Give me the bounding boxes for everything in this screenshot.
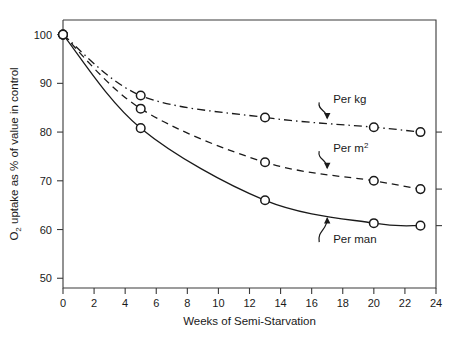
series-line-per-man [63, 35, 420, 226]
annotation-label-text-per-kg: Per kg [333, 93, 366, 105]
y-tick-label-80: 80 [40, 126, 52, 138]
y-tick-label-50: 50 [40, 272, 52, 284]
annotation-label-superscript-per-m2: 2 [364, 141, 369, 150]
y-axis-title-rest: uptake as % of value in control [8, 67, 20, 227]
data-point-per-man-w0 [59, 30, 68, 39]
annotation-per-man: Per man [319, 217, 377, 245]
x-tick-label-18: 18 [337, 297, 349, 309]
y-axis-tick-labels: 5060708090100 [34, 29, 52, 285]
chart-figure: 024681012141618202224 5060708090100 Per … [0, 0, 459, 339]
annotation-label-per-kg: Per kg [333, 93, 366, 105]
data-point-per-m2-w13 [261, 158, 270, 167]
series-per-kg [59, 30, 425, 136]
annotation-label-per-man: Per man [333, 233, 376, 245]
x-axis-title: Weeks of Semi-Starvation [183, 315, 316, 327]
y-tick-label-70: 70 [40, 175, 52, 187]
x-tick-label-20: 20 [368, 297, 380, 309]
annotation-label-text-per-m2: Per m [333, 142, 364, 154]
y-axis-title: O2 uptake as % of value in control [8, 67, 23, 240]
x-tick-label-2: 2 [91, 297, 97, 309]
data-series-group [59, 30, 425, 230]
frame-border [63, 20, 436, 288]
series-line-per-kg [63, 35, 420, 132]
data-point-per-kg-w13 [261, 113, 270, 122]
data-point-per-man-w5 [136, 124, 145, 133]
x-tick-label-12: 12 [243, 297, 255, 309]
data-point-per-kg-w5 [136, 91, 145, 100]
x-tick-label-14: 14 [274, 297, 286, 309]
x-tick-label-10: 10 [212, 297, 224, 309]
annotation-per-kg: Per kg [319, 93, 367, 119]
x-tick-label-8: 8 [184, 297, 190, 309]
data-point-per-m2-w20 [370, 177, 379, 186]
x-tick-label-16: 16 [306, 297, 318, 309]
y-tick-label-100: 100 [34, 29, 52, 41]
data-point-per-m2-w23 [416, 185, 425, 194]
data-point-per-kg-w23 [416, 128, 425, 137]
x-tick-label-4: 4 [122, 297, 128, 309]
x-tick-label-6: 6 [153, 297, 159, 309]
data-point-per-man-w23 [416, 221, 425, 230]
annotation-arrowhead-per-m2 [324, 163, 330, 170]
data-point-per-m2-w5 [136, 104, 145, 113]
x-tick-label-24: 24 [430, 297, 442, 309]
annotation-per-m2: Per m2 [319, 141, 369, 169]
y-axis-title-lead: O [8, 232, 20, 241]
annotation-label-per-m2: Per m2 [333, 141, 369, 154]
y-tick-label-60: 60 [40, 224, 52, 236]
data-point-per-man-w20 [370, 219, 379, 228]
annotation-arrowhead-per-kg [324, 113, 330, 120]
y-tick-label-90: 90 [40, 77, 52, 89]
annotation-arrowhead-per-man [324, 217, 330, 224]
chart-canvas: 024681012141618202224 5060708090100 Per … [0, 0, 459, 339]
data-point-per-man-w13 [261, 196, 270, 205]
x-axis-tick-labels: 024681012141618202224 [60, 297, 442, 309]
y-axis-ticks [57, 35, 442, 279]
x-axis-ticks [63, 288, 436, 294]
data-point-per-kg-w20 [370, 123, 379, 132]
plot-frame [63, 20, 436, 288]
series-per-m2 [59, 30, 425, 193]
annotation-label-text-per-man: Per man [333, 233, 376, 245]
x-tick-label-22: 22 [399, 297, 411, 309]
x-tick-label-0: 0 [60, 297, 66, 309]
series-line-per-m2 [63, 35, 420, 189]
